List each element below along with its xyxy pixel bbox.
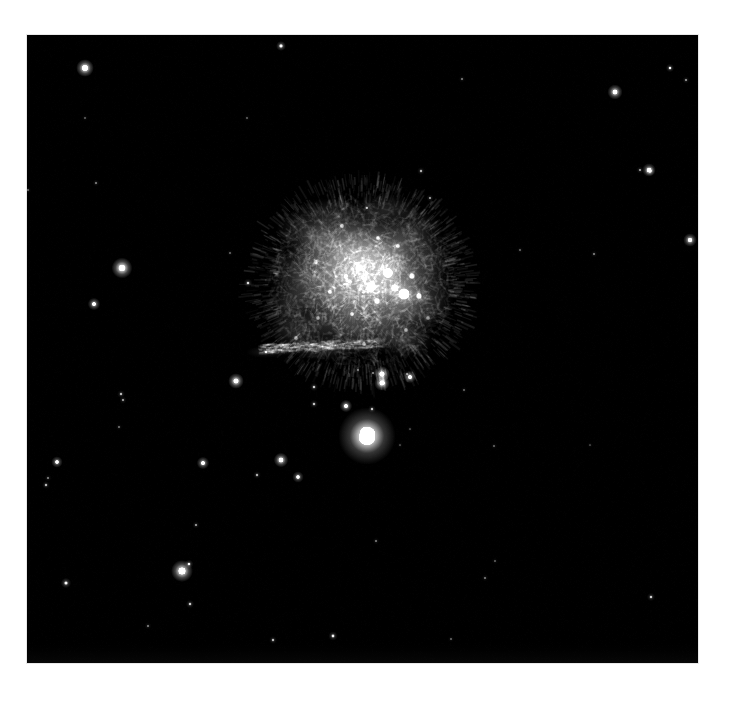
- astronomical-image-frame: [27, 35, 698, 663]
- sky-canvas: [27, 35, 698, 663]
- page-root: Supernova remnant nebula field: [0, 0, 731, 701]
